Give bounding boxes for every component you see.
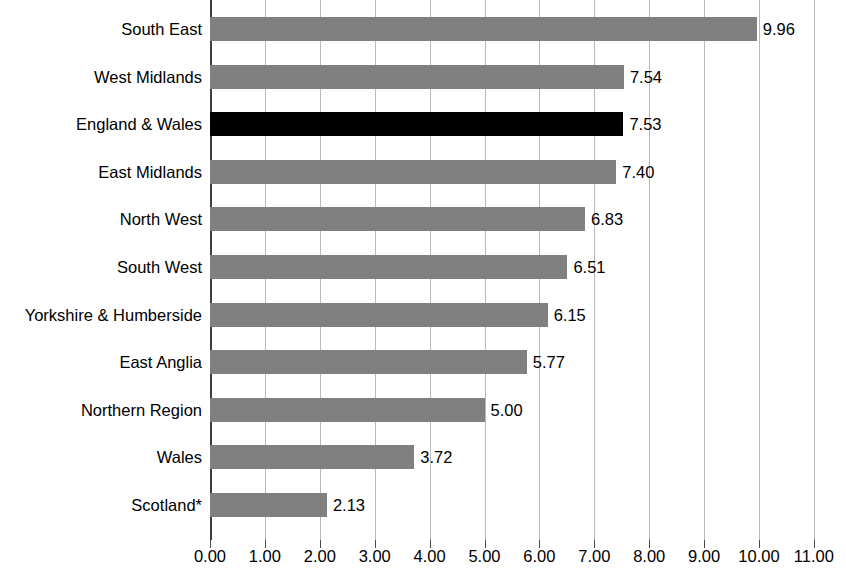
gridline	[759, 0, 760, 540]
value-label: 7.40	[622, 160, 654, 184]
category-label: South West	[0, 255, 202, 279]
value-label: 5.00	[491, 398, 523, 422]
x-tick-label: 0.00	[194, 546, 226, 566]
x-tick-label: 1.00	[249, 546, 281, 566]
bar	[210, 350, 527, 374]
value-label: 9.96	[763, 17, 795, 41]
bar	[210, 445, 414, 469]
x-tick-label: 10.00	[738, 546, 779, 566]
category-label: North West	[0, 207, 202, 231]
category-label: Yorkshire & Humberside	[0, 303, 202, 327]
value-label: 7.54	[630, 65, 662, 89]
category-label: Scotland*	[0, 493, 202, 517]
x-tick-label: 3.00	[359, 546, 391, 566]
bar	[210, 255, 567, 279]
category-label: East Anglia	[0, 350, 202, 374]
bar	[210, 17, 757, 41]
gridline	[814, 0, 815, 540]
value-label: 5.77	[533, 350, 565, 374]
bar-chart: South EastWest MidlandsEngland & WalesEa…	[0, 0, 846, 568]
value-label: 3.72	[420, 445, 452, 469]
bar	[210, 65, 624, 89]
value-label: 7.53	[629, 112, 661, 136]
x-tick-label: 11.00	[794, 546, 834, 566]
bar	[210, 303, 548, 327]
category-label: South East	[0, 17, 202, 41]
value-label: 6.15	[554, 303, 586, 327]
bar	[210, 207, 585, 231]
bar	[210, 112, 623, 136]
value-label: 6.51	[573, 255, 605, 279]
plot-area	[210, 0, 846, 540]
x-tick-label: 2.00	[304, 546, 336, 566]
x-tick-label: 8.00	[633, 546, 665, 566]
value-label: 2.13	[333, 493, 365, 517]
x-tick-label: 4.00	[414, 546, 446, 566]
x-tick-label: 6.00	[523, 546, 555, 566]
x-tick-label: 5.00	[468, 546, 500, 566]
category-label: England & Wales	[0, 112, 202, 136]
category-label: Wales	[0, 445, 202, 469]
category-label: Northern Region	[0, 398, 202, 422]
gridline	[704, 0, 705, 540]
category-label: West Midlands	[0, 65, 202, 89]
x-tick-label: 9.00	[688, 546, 720, 566]
category-label: East Midlands	[0, 160, 202, 184]
bar	[210, 398, 485, 422]
bar	[210, 160, 616, 184]
value-label: 6.83	[591, 207, 623, 231]
x-tick-label: 7.00	[578, 546, 610, 566]
bar	[210, 493, 327, 517]
